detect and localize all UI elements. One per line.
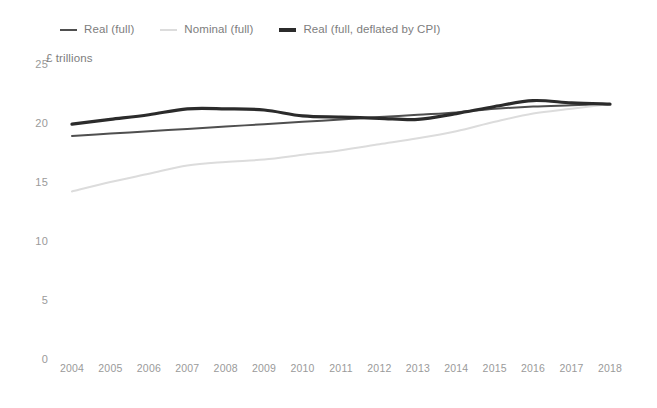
y-axis-tick-label: 20: [14, 117, 48, 129]
chart-svg: [0, 0, 657, 408]
x-axis-tick-label: 2017: [550, 362, 594, 374]
y-axis-tick-label: 25: [14, 58, 48, 70]
x-axis-tick-label: 2018: [588, 362, 632, 374]
y-axis-tick-label: 5: [14, 294, 48, 306]
x-axis-tick-label: 2014: [434, 362, 478, 374]
series-line: [72, 104, 610, 136]
x-axis-tick-label: 2004: [50, 362, 94, 374]
x-axis-tick-label: 2016: [511, 362, 555, 374]
x-axis-tick-label: 2005: [88, 362, 132, 374]
y-axis-tick-label: 10: [14, 235, 48, 247]
x-axis-tick-label: 2011: [319, 362, 363, 374]
y-axis-tick-label: 0: [14, 353, 48, 365]
y-axis-tick-label: 15: [14, 176, 48, 188]
x-axis-tick-label: 2007: [165, 362, 209, 374]
series-line: [72, 100, 610, 124]
chart-plot-area: 0510152025 20042005200620072008200920102…: [0, 0, 657, 408]
x-axis-tick-label: 2008: [204, 362, 248, 374]
x-axis-tick-label: 2010: [281, 362, 325, 374]
x-axis-tick-label: 2015: [473, 362, 517, 374]
x-axis-tick-label: 2012: [357, 362, 401, 374]
x-axis-tick-label: 2013: [396, 362, 440, 374]
x-axis-tick-label: 2009: [242, 362, 286, 374]
chart-series-group: [72, 100, 610, 191]
x-axis-tick-label: 2006: [127, 362, 171, 374]
